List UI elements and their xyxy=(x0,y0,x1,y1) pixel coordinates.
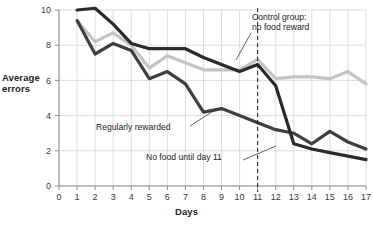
chart-plot-svg: 012345678910111213141516170246810 xyxy=(0,0,373,226)
y-axis-title-line2: errors xyxy=(2,83,50,94)
annotation-control-line1: Control group: xyxy=(252,12,309,22)
annotation-control-line2: no food reward xyxy=(252,22,309,32)
x-tick-label: 10 xyxy=(235,192,245,202)
x-tick-label: 1 xyxy=(75,192,80,202)
leader-line-control xyxy=(236,33,251,60)
x-tick-label: 15 xyxy=(325,192,335,202)
x-tick-label: 6 xyxy=(165,192,170,202)
annotation-control-group: Control group: no food reward xyxy=(252,12,309,32)
x-tick-label: 14 xyxy=(307,192,317,202)
x-tick-label: 8 xyxy=(201,192,206,202)
chart-container: 012345678910111213141516170246810 Averag… xyxy=(0,0,373,226)
x-tick-label: 12 xyxy=(271,192,281,202)
y-tick-label: 8 xyxy=(46,40,51,50)
x-tick-label: 7 xyxy=(183,192,188,202)
y-tick-label: 2 xyxy=(46,146,51,156)
y-tick-label: 4 xyxy=(46,111,51,121)
y-tick-label: 10 xyxy=(41,5,51,15)
x-tick-label: 17 xyxy=(361,192,371,202)
leader-line-nofood xyxy=(243,146,276,160)
annotation-no-food-until-day-11: No food until day 11 xyxy=(146,152,222,162)
x-tick-label: 9 xyxy=(219,192,224,202)
x-tick-label: 2 xyxy=(93,192,98,202)
x-tick-label: 5 xyxy=(147,192,152,202)
x-tick-label: 4 xyxy=(129,192,134,202)
y-axis-title: Average errors xyxy=(2,72,50,94)
x-tick-label: 13 xyxy=(289,192,299,202)
x-tick-label: 11 xyxy=(253,192,262,202)
y-tick-label: 0 xyxy=(46,181,51,191)
annotation-regularly-rewarded: Regularly rewarded xyxy=(96,122,171,132)
x-tick-label: 0 xyxy=(56,192,61,202)
x-axis-title: Days xyxy=(0,206,373,217)
annotation-leader-lines xyxy=(190,33,276,160)
y-axis-title-line1: Average xyxy=(2,72,50,83)
x-tick-label: 3 xyxy=(111,192,116,202)
x-tick-label: 16 xyxy=(343,192,353,202)
